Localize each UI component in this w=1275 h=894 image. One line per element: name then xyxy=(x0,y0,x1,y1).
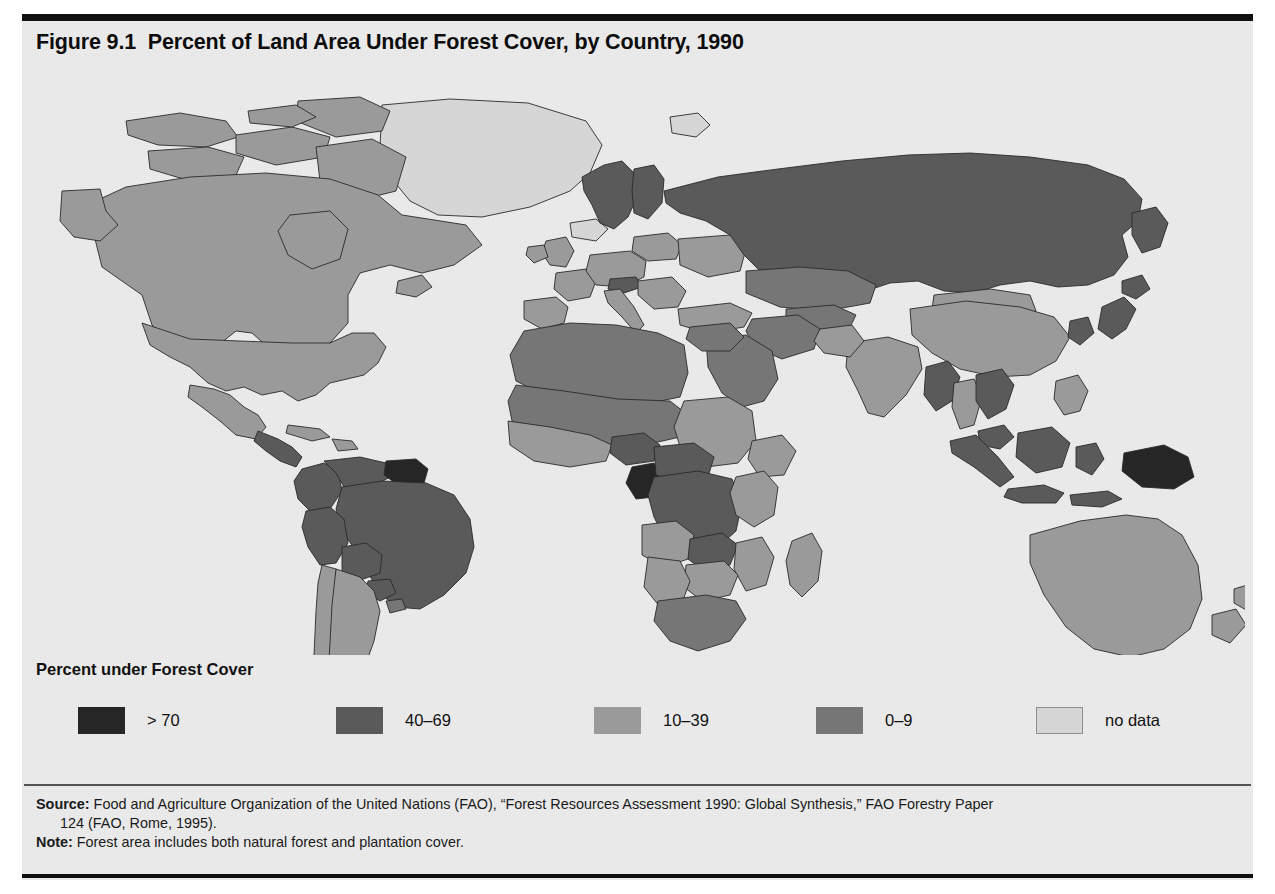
region-borneo xyxy=(1016,427,1070,473)
source-text: Food and Agriculture Organization of the… xyxy=(90,796,994,812)
legend-item-40-69[interactable]: 40–69 xyxy=(336,702,451,738)
region-arctic-islands-west xyxy=(126,113,238,147)
region-japan-north xyxy=(1122,275,1150,299)
legend-row: > 70 40–69 10–39 0–9 no data xyxy=(36,702,1236,742)
region-kamchatka xyxy=(1132,207,1168,253)
figure-footer: Source: Food and Agriculture Organizatio… xyxy=(36,795,1236,852)
region-lesser-sunda xyxy=(1070,491,1122,507)
region-australia xyxy=(1030,515,1202,655)
legend-label-no-data: no data xyxy=(1105,711,1160,730)
region-sulawesi xyxy=(1076,443,1104,475)
region-korea xyxy=(1068,317,1094,345)
legend-item-0-9[interactable]: 0–9 xyxy=(816,702,913,738)
note-text: Forest area includes both natural forest… xyxy=(73,834,464,850)
legend-swatch-gt70 xyxy=(78,707,125,734)
region-svalbard xyxy=(670,113,710,137)
footer-divider-rule xyxy=(24,784,1251,786)
note-line: Note: Forest area includes both natural … xyxy=(36,833,1236,852)
legend-title: Percent under Forest Cover xyxy=(36,660,253,679)
region-ireland xyxy=(526,245,548,263)
region-finland xyxy=(632,165,664,219)
region-new-zealand-north xyxy=(1234,583,1245,611)
region-south-africa xyxy=(654,595,746,651)
world-choropleth-map: .l { stroke:#2a2a2a; stroke-width:0.9; s… xyxy=(30,95,1245,655)
legend-swatch-no-data xyxy=(1036,707,1083,734)
region-uruguay xyxy=(386,599,406,613)
legend-label-10-39: 10–39 xyxy=(663,711,709,730)
figure-title: Figure 9.1 Percent of Land Area Under Fo… xyxy=(36,30,744,55)
source-line: Source: Food and Agriculture Organizatio… xyxy=(36,795,1236,814)
region-arctic-islands-victoria xyxy=(236,127,330,165)
region-balkans xyxy=(638,277,686,309)
region-new-zealand-south xyxy=(1212,609,1245,643)
note-label: Note: xyxy=(36,834,73,850)
legend-swatch-0-9 xyxy=(816,707,863,734)
legend-swatch-10-39 xyxy=(594,707,641,734)
legend-item-gt70[interactable]: > 70 xyxy=(78,702,180,738)
legend-label-gt70: > 70 xyxy=(147,711,180,730)
map-legend: Percent under Forest Cover > 70 40–69 10… xyxy=(36,660,1236,760)
legend-item-10-39[interactable]: 10–39 xyxy=(594,702,709,738)
region-mozambique xyxy=(734,537,774,591)
top-rule xyxy=(22,14,1253,21)
region-zimbabwe-botswana xyxy=(684,561,738,601)
source-line-continued: 124 (FAO, Rome, 1995). xyxy=(36,814,1236,833)
region-java xyxy=(1004,485,1064,503)
world-map-container: .l { stroke:#2a2a2a; stroke-width:0.9; s… xyxy=(30,95,1245,655)
legend-swatch-40-69 xyxy=(336,707,383,734)
legend-label-0-9: 0–9 xyxy=(885,711,913,730)
region-mexico xyxy=(188,385,266,439)
source-label: Source: xyxy=(36,796,90,812)
region-hispaniola xyxy=(332,439,358,451)
legend-item-no-data[interactable]: no data xyxy=(1036,702,1160,738)
bottom-rule xyxy=(22,874,1253,878)
region-greenland xyxy=(380,99,602,217)
region-central-america xyxy=(254,431,302,467)
legend-label-40-69: 40–69 xyxy=(405,711,451,730)
region-madagascar xyxy=(786,533,822,597)
region-japan xyxy=(1098,297,1136,339)
figure-root: Figure 9.1 Percent of Land Area Under Fo… xyxy=(0,0,1275,894)
region-newfoundland xyxy=(396,275,432,297)
region-philippines xyxy=(1054,375,1088,415)
region-cuba xyxy=(286,425,330,441)
region-papua-new-guinea xyxy=(1122,445,1194,489)
region-somalia xyxy=(748,435,796,477)
